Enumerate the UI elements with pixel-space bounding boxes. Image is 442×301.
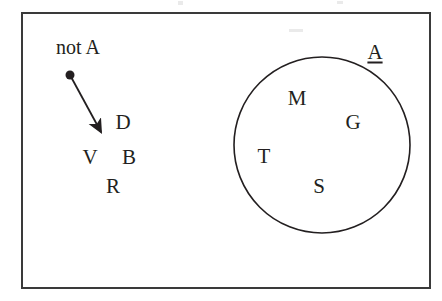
figure-canvas: A not A MGTS DVBR bbox=[0, 0, 442, 301]
not-a-pointer-line bbox=[70, 75, 101, 132]
member-inside-m: M bbox=[288, 88, 307, 109]
member-outside-b: B bbox=[122, 147, 136, 168]
not-a-pointer-dot bbox=[66, 71, 75, 80]
member-outside-r: R bbox=[106, 176, 120, 197]
not-a-label: not A bbox=[56, 37, 100, 57]
member-inside-s: S bbox=[313, 176, 325, 197]
member-outside-d: D bbox=[115, 112, 130, 133]
member-inside-t: T bbox=[258, 146, 271, 167]
member-outside-v: V bbox=[82, 147, 97, 168]
set-a-label: A bbox=[367, 42, 382, 63]
member-inside-g: G bbox=[345, 112, 360, 133]
